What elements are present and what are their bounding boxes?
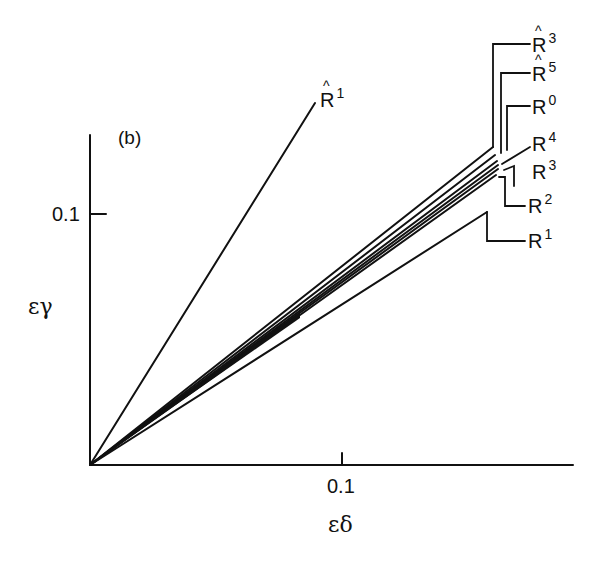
label-sup: 4 [548,129,556,145]
x-tick-label: 0.1 [327,476,355,496]
panel-label: (b) [118,128,141,147]
label-R1: R1 [528,231,552,251]
label-base: R [528,195,542,217]
label-sup: 1 [336,85,344,101]
label-R3: R3 [532,162,556,182]
y-axis-label: εγ [28,296,53,318]
label-sup: 3 [548,157,556,173]
label-base: R [532,96,546,118]
x-axis-label: εδ [328,514,353,536]
label-Rhat5: ^R5 [532,64,556,84]
label-sup: 2 [544,191,552,207]
label-R2: R2 [528,196,552,216]
label-sup: 0 [548,92,556,108]
leader-R1 [487,212,525,241]
y-tick-label: 0.1 [52,204,80,224]
label-base: R [532,133,546,155]
label-R0: R0 [532,97,556,117]
label-base: R [532,161,546,183]
label-R4: R4 [532,134,556,154]
hat-mark: ^ [323,79,330,93]
leader-Rhat3 [493,44,530,147]
label-sup: 5 [548,59,556,75]
chart-canvas [0,0,591,561]
series-Rhat1 [90,103,315,465]
leader-R2 [499,177,525,206]
hat-mark: ^ [535,53,542,67]
label-sup: 1 [544,226,552,242]
leader-Rhat5 [501,73,530,153]
series-Rhat3 [90,147,493,465]
label-sup: 3 [548,30,556,46]
leader-R0 [507,106,530,150]
series-R1 [90,212,487,465]
label-Rhat1: ^R1 [320,90,344,110]
label-base: R [528,230,542,252]
hat-mark: ^ [535,24,542,38]
